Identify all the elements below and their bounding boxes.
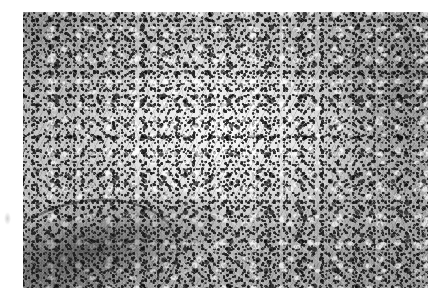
nuclei-clusters-mid — [23, 12, 428, 288]
nuclei-speckle-fine — [23, 12, 428, 288]
region-lower-left-fibrous-band — [23, 157, 236, 288]
collagen-arc — [23, 186, 187, 288]
fibrous-strand-texture — [23, 12, 428, 288]
plate-vignette — [23, 12, 428, 288]
film-grain-overlay — [23, 12, 428, 288]
tissue-field-base — [23, 12, 428, 288]
pale-interstitial-lacunae — [23, 12, 428, 288]
figure-root: Grayscale histopathology photomicrograph… — [0, 0, 447, 296]
left-margin-smudge-artifact — [4, 212, 11, 225]
histopathology-micrograph — [23, 12, 428, 288]
